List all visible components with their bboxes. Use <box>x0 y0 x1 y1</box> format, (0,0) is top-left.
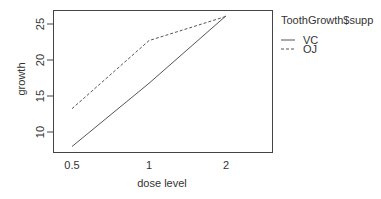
x-tick-label: 2 <box>223 159 229 171</box>
legend-label-oj: OJ <box>303 43 317 55</box>
chart-canvas: 25 20 15 10 growth 0.5 1 2 dose level To… <box>0 0 381 199</box>
legend-title: ToothGrowth$supp <box>281 14 373 26</box>
x-tick-label: 0.5 <box>64 159 79 171</box>
y-axis: 25 20 15 10 <box>34 18 53 138</box>
series-line-vc <box>72 16 226 147</box>
x-axis: 0.5 1 2 <box>64 152 229 171</box>
y-tick-label: 15 <box>34 90 46 102</box>
series-line-oj <box>72 16 226 108</box>
plot-area-frame <box>54 11 273 153</box>
y-tick-label: 20 <box>34 54 46 66</box>
y-tick-label: 25 <box>34 18 46 30</box>
legend: ToothGrowth$supp VC OJ <box>281 14 373 55</box>
x-tick-label: 1 <box>146 159 152 171</box>
y-axis-title: growth <box>15 62 27 95</box>
x-axis-title: dose level <box>137 177 187 189</box>
y-tick-label: 10 <box>34 126 46 138</box>
